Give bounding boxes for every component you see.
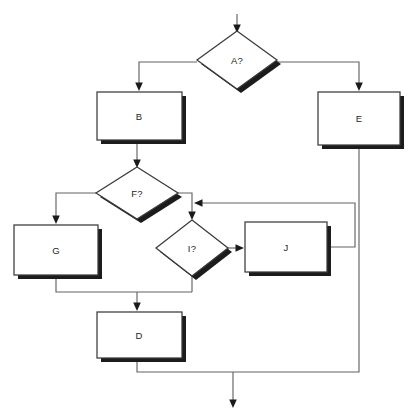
node-process-d[interactable]: D bbox=[97, 312, 186, 362]
edge-D-to-exit bbox=[137, 360, 237, 408]
node-label-f: F? bbox=[131, 188, 143, 199]
flowchart-diagram: A? B E F? G I? bbox=[0, 0, 414, 420]
node-label-g: G bbox=[52, 245, 60, 256]
edge-F-to-G bbox=[52, 193, 96, 224]
edge-A-to-E bbox=[277, 62, 363, 91]
node-label-d: D bbox=[135, 330, 142, 341]
edge-G-to-D bbox=[56, 277, 192, 292]
node-decision-a[interactable]: A? bbox=[197, 31, 281, 93]
node-process-j[interactable]: J bbox=[245, 222, 331, 276]
node-decision-f[interactable]: F? bbox=[96, 167, 182, 223]
edge-I-to-J bbox=[228, 244, 244, 252]
node-label-j: J bbox=[284, 242, 289, 253]
flowchart-canvas: A? B E F? G I? bbox=[0, 0, 414, 420]
edge-entry-to-A bbox=[233, 14, 241, 33]
node-process-e[interactable]: E bbox=[318, 92, 404, 149]
node-label-b: B bbox=[136, 111, 143, 122]
node-decision-i[interactable]: I? bbox=[156, 220, 232, 280]
node-label-e: E bbox=[356, 113, 363, 124]
edge-A-to-B bbox=[135, 62, 197, 91]
node-label-a: A? bbox=[231, 55, 243, 66]
node-process-b[interactable]: B bbox=[97, 92, 186, 144]
node-process-g[interactable]: G bbox=[14, 225, 102, 279]
edge-I-to-D bbox=[133, 276, 192, 311]
node-label-i: I? bbox=[188, 243, 196, 254]
edge-B-to-F bbox=[133, 142, 141, 168]
